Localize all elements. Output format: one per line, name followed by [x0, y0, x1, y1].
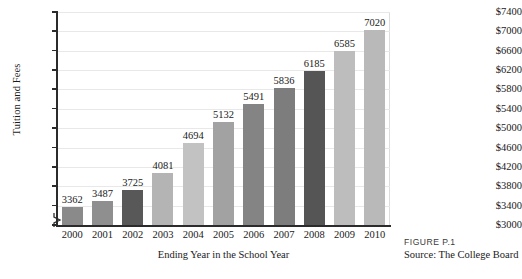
x-tick-label: 2008 — [298, 229, 330, 240]
bar-value-label: 6585 — [334, 38, 355, 49]
y-tick-label: $5400 — [476, 104, 522, 114]
y-tick-label: $4600 — [476, 143, 522, 153]
y-tick-label: $3000 — [476, 220, 522, 230]
bar[interactable] — [213, 122, 234, 225]
x-tick-label: 2001 — [86, 229, 118, 240]
bar-value-label: 5491 — [243, 91, 264, 102]
x-tick-label: 2000 — [56, 229, 88, 240]
x-tick-label: 2004 — [177, 229, 209, 240]
bar-value-label: 3487 — [92, 188, 113, 199]
bar-value-label: 3362 — [62, 194, 83, 205]
bar-group[interactable]: 6585 — [334, 51, 355, 225]
x-tick-label: 2006 — [238, 229, 270, 240]
x-tick-label: 2002 — [117, 229, 149, 240]
bar-group[interactable]: 4081 — [152, 173, 173, 225]
y-tick-label: $5000 — [476, 123, 522, 133]
figure-source-label: Source: The College Board — [404, 248, 522, 261]
y-tick-label: $7000 — [476, 26, 522, 36]
y-axis-title: Tuition and Fees — [11, 40, 22, 160]
bar-value-label: 4081 — [152, 160, 173, 171]
bar[interactable] — [364, 30, 385, 225]
bar-value-label: 5836 — [274, 75, 295, 86]
x-tick-label: 2009 — [329, 229, 361, 240]
bar-group[interactable]: 5132 — [213, 122, 234, 225]
figure-bar-chart: Tuition and Fees $7400$7000$6600$6200$58… — [0, 0, 522, 279]
bar-value-label: 6185 — [304, 58, 325, 69]
bar-group[interactable]: 3362 — [62, 207, 83, 225]
y-tick-label: $6200 — [476, 65, 522, 75]
bar-group[interactable]: 3725 — [122, 190, 143, 225]
x-tick-label: 2005 — [208, 229, 240, 240]
bars-layer: 3362348737254081469451325491583661856585… — [57, 12, 390, 225]
bar-group[interactable]: 4694 — [183, 143, 204, 225]
bar-value-label: 4694 — [183, 130, 204, 141]
bar-group[interactable]: 3487 — [92, 201, 113, 225]
figure-caption: FIGURE P.1 Source: The College Board — [404, 236, 522, 261]
bar[interactable] — [62, 207, 83, 225]
x-tick-label: 2007 — [268, 229, 300, 240]
bar[interactable] — [274, 88, 295, 225]
bar[interactable] — [334, 51, 355, 225]
bar[interactable] — [92, 201, 113, 225]
x-tick-label: 2010 — [359, 229, 391, 240]
bar-group[interactable]: 6185 — [304, 71, 325, 225]
x-axis-title: Ending Year in the School Year — [57, 249, 390, 260]
y-tick-label: $6600 — [476, 46, 522, 56]
y-tick-label: $3800 — [476, 181, 522, 191]
bar-value-label: 5132 — [213, 109, 234, 120]
bar[interactable] — [122, 190, 143, 225]
bar-group[interactable]: 5836 — [274, 88, 295, 225]
bar[interactable] — [183, 143, 204, 225]
bar[interactable] — [243, 104, 264, 225]
bar-group[interactable]: 5491 — [243, 104, 264, 225]
y-tick-label: $3400 — [476, 201, 522, 211]
bar[interactable] — [152, 173, 173, 225]
bar-group[interactable]: 7020 — [364, 30, 385, 225]
bar-value-label: 7020 — [364, 17, 385, 28]
bar[interactable] — [304, 71, 325, 225]
y-tick-label: $4200 — [476, 162, 522, 172]
figure-id-label: FIGURE P.1 — [404, 236, 522, 248]
bar-value-label: 3725 — [122, 177, 143, 188]
y-tick-label: $7400 — [476, 7, 522, 17]
x-tick-label: 2003 — [147, 229, 179, 240]
y-tick-label: $5800 — [476, 84, 522, 94]
x-axis-line — [56, 225, 391, 227]
